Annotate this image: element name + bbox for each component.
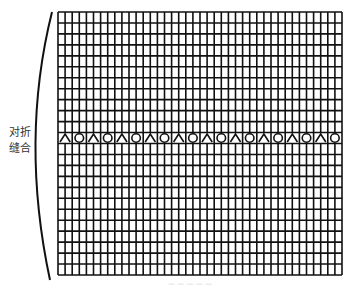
knit-together-symbol	[88, 134, 98, 142]
knit-together-symbol	[117, 134, 127, 142]
knit-together-symbol	[145, 134, 155, 142]
yarn-over-symbol	[132, 134, 141, 143]
yarn-over-symbol	[245, 134, 254, 143]
yarn-over-symbol	[302, 134, 311, 143]
knit-together-symbol	[174, 134, 184, 142]
knit-together-symbol	[202, 134, 212, 142]
yarn-over-symbol	[103, 134, 112, 143]
label-line-1: 对折	[6, 125, 34, 141]
knit-together-symbol	[60, 134, 70, 142]
knit-together-symbol	[316, 134, 326, 142]
caption: — — — — —	[150, 280, 230, 288]
yarn-over-symbol	[160, 134, 169, 143]
label-line-2: 缝合	[6, 141, 34, 157]
yarn-over-symbol	[217, 134, 226, 143]
knit-together-symbol	[287, 134, 297, 142]
yarn-over-symbol	[274, 134, 283, 143]
yarn-over-symbol	[331, 134, 340, 143]
knit-together-symbol	[230, 134, 240, 142]
yarn-over-symbol	[189, 134, 198, 143]
knitting-chart-grid	[0, 0, 354, 290]
yarn-over-symbol	[75, 134, 84, 143]
fold-seam-label: 对折 缝合	[6, 125, 34, 157]
knit-together-symbol	[259, 134, 269, 142]
